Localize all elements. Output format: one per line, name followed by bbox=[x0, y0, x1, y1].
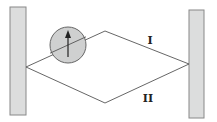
path-II-label: II bbox=[143, 92, 153, 105]
interferometer-diagram: I II bbox=[0, 0, 217, 122]
path-II bbox=[26, 64, 189, 103]
spin-icon bbox=[50, 27, 86, 63]
path-I-label: I bbox=[147, 34, 152, 47]
right-plate bbox=[189, 10, 204, 118]
left-plate bbox=[10, 7, 26, 115]
